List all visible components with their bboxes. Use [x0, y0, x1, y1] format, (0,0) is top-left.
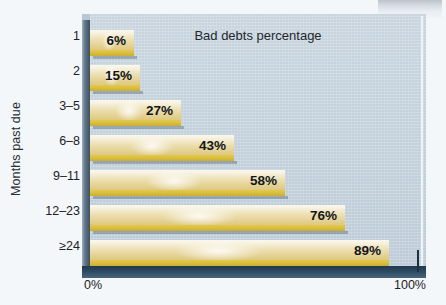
bar-value-label: 76% — [310, 206, 337, 226]
plot-area: Bad debts percentage 6% 15% 27 — [90, 14, 426, 266]
bar-1: 6% — [90, 30, 134, 56]
y-tick-label: 2 — [14, 65, 80, 78]
bar-value-label: 43% — [199, 136, 226, 156]
plot-right-edge — [421, 16, 423, 266]
y-tick-label: 6–8 — [14, 135, 80, 148]
bar-shadow — [93, 91, 143, 94]
bar-stripe — [90, 260, 389, 266]
bar-3: 27% — [90, 100, 181, 126]
x-axis-tick-100 — [417, 250, 419, 272]
y-tick-label: 1 — [14, 30, 80, 43]
bar-shadow — [93, 56, 137, 59]
x-axis-min-label: 0% — [84, 278, 102, 292]
bar-value-label: 27% — [146, 101, 173, 121]
bar-shadow — [93, 196, 288, 199]
bar-5: 58% — [90, 170, 285, 196]
bar-shadow — [93, 231, 348, 234]
bar-7: 89% — [90, 240, 389, 266]
y-axis-tick-labels: 1 2 3–5 6–8 9–11 12–23 ≥24 — [14, 24, 80, 272]
axis-bottom-spine — [82, 266, 426, 278]
bar-2: 15% — [90, 65, 140, 91]
x-axis-max-label: 100% — [394, 278, 426, 292]
bar-6: 76% — [90, 205, 345, 231]
bar-value-label: 89% — [354, 241, 381, 261]
axis-left-spine — [82, 14, 90, 278]
bar-gloss — [115, 100, 142, 120]
y-tick-label: 3–5 — [14, 100, 80, 113]
bar-shadow — [93, 161, 237, 164]
bar-value-label: 15% — [105, 66, 132, 86]
bar-gloss — [174, 240, 264, 260]
bar-stripe — [90, 225, 345, 231]
y-tick-label: 12–23 — [14, 205, 80, 218]
bar-chart: Months past due 1 2 3–5 6–8 9–11 12–23 ≥… — [0, 0, 446, 305]
chart-title: Bad debts percentage — [90, 28, 426, 43]
bar-gloss — [130, 135, 173, 155]
bar-value-label: 6% — [106, 31, 126, 51]
y-tick-label: 9–11 — [14, 170, 80, 183]
bar-gloss — [145, 170, 204, 190]
plot-slab: Bad debts percentage 6% 15% 27 — [82, 14, 426, 278]
bar-shadow — [93, 126, 184, 129]
bar-gloss — [161, 205, 238, 225]
bar-value-label: 58% — [250, 171, 277, 191]
y-tick-label: ≥24 — [14, 240, 80, 253]
bar-4: 43% — [90, 135, 234, 161]
